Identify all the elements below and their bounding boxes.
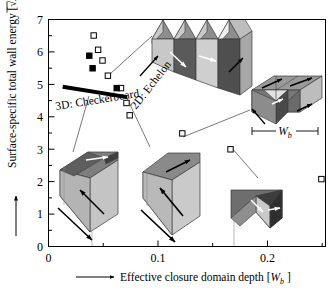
figure-root: 0 1 2 3 4 5 6 7 Surface-specific total w… — [0, 0, 335, 292]
x-axis-title-group: Effective closure domain depth [Wb ] — [76, 271, 291, 286]
y-tick-label: 2 — [37, 175, 43, 189]
data-point-open — [100, 58, 105, 63]
x-axis-title: Effective closure domain depth [Wb ] — [120, 271, 291, 286]
data-point-open — [127, 113, 132, 118]
y-tick-label: 1 — [37, 207, 43, 221]
x-tick-label: 0.1 — [151, 251, 166, 265]
data-point-open — [180, 131, 185, 136]
y-axis-title-group: Surface-specific total wall energy [√AK … — [6, 0, 20, 236]
chart-svg: 0 1 2 3 4 5 6 7 Surface-specific total w… — [0, 0, 335, 292]
y-tick-label: 4 — [37, 110, 43, 124]
y-tick-label: 6 — [37, 45, 43, 59]
y-tick-label: 5 — [37, 78, 43, 92]
data-point-filled — [87, 53, 92, 58]
data-point-open — [228, 147, 233, 152]
data-point-open — [95, 47, 100, 52]
data-point-open — [319, 176, 324, 181]
x-tick-label: 0 — [46, 251, 52, 265]
data-point-filled — [90, 66, 95, 71]
y-tick-label: 0 — [37, 240, 43, 254]
x-tick-label: 0.2 — [260, 251, 275, 265]
data-point-open — [91, 33, 96, 38]
y-axis-title: Surface-specific total wall energy [√AK … — [6, 0, 20, 168]
data-point-open — [105, 73, 110, 78]
y-tick-label: 3 — [37, 143, 43, 157]
y-tick-label: 7 — [37, 13, 43, 27]
